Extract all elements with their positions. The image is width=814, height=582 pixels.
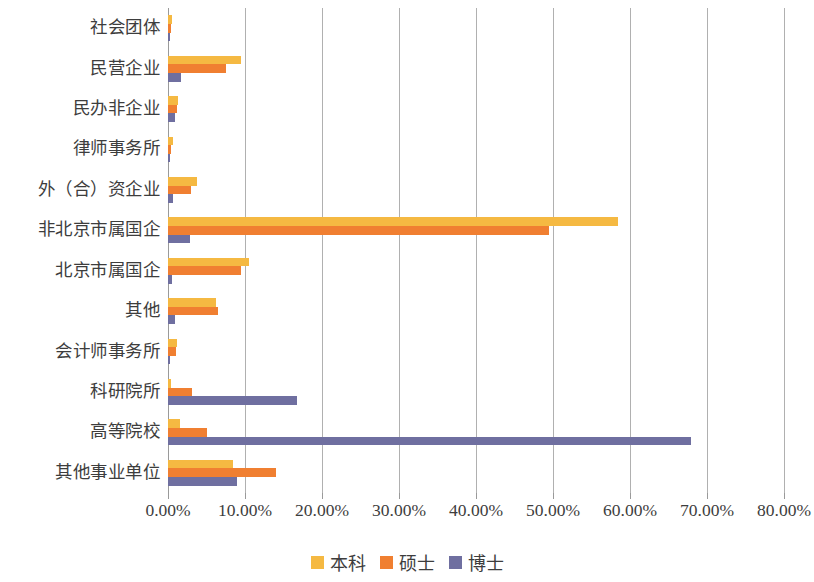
bar-group xyxy=(168,412,784,452)
bar-本科-会计师事务所 xyxy=(168,339,177,348)
y-axis-label-北京市属国企: 北京市属国企 xyxy=(0,262,160,280)
bar-博士-科研院所 xyxy=(168,396,297,405)
legend-swatch-icon-本科 xyxy=(311,556,324,569)
y-axis-label-社会团体: 社会团体 xyxy=(0,19,160,37)
bar-硕士-民营企业 xyxy=(168,64,226,73)
bar-本科-民营企业 xyxy=(168,56,241,65)
legend-item-本科[interactable]: 本科 xyxy=(311,549,366,575)
chart-legend: 本科硕士博士 xyxy=(0,549,814,575)
legend-label-博士: 博士 xyxy=(468,549,504,575)
bar-博士-其他事业单位 xyxy=(168,477,237,486)
x-tick-60 xyxy=(630,493,631,499)
x-tick-80 xyxy=(784,493,785,499)
bar-本科-外（合）资企业 xyxy=(168,177,197,186)
x-tick-0 xyxy=(168,493,169,499)
bar-本科-民办非企业 xyxy=(168,96,178,105)
bar-硕士-北京市属国企 xyxy=(168,266,241,275)
x-tick-40 xyxy=(476,493,477,499)
bar-本科-非北京市属国企 xyxy=(168,217,618,226)
y-axis-label-外（合）资企业: 外（合）资企业 xyxy=(0,181,160,199)
x-axis-tick-labels: 0.00%10.00%20.00%30.00%40.00%50.00%60.00… xyxy=(0,500,814,530)
bar-硕士-会计师事务所 xyxy=(168,347,176,356)
y-axis-label-律师事务所: 律师事务所 xyxy=(0,140,160,158)
y-axis-label-非北京市属国企: 非北京市属国企 xyxy=(0,221,160,239)
bar-group xyxy=(168,453,784,493)
bar-博士-其他 xyxy=(168,315,175,324)
x-tick-30 xyxy=(399,493,400,499)
horizontal-bar-chart: 社会团体民营企业民办非企业律师事务所外（合）资企业非北京市属国企北京市属国企其他… xyxy=(0,0,814,582)
bar-硕士-其他事业单位 xyxy=(168,468,276,477)
bar-group xyxy=(168,89,784,129)
x-tick-20 xyxy=(322,493,323,499)
bar-博士-会计师事务所 xyxy=(168,356,170,365)
bar-group xyxy=(168,372,784,412)
bar-硕士-非北京市属国企 xyxy=(168,226,549,235)
y-axis-label-高等院校: 高等院校 xyxy=(0,423,160,441)
bar-硕士-律师事务所 xyxy=(168,145,171,154)
bar-博士-民办非企业 xyxy=(168,113,175,122)
bar-本科-社会团体 xyxy=(168,15,172,24)
legend-swatch-icon-硕士 xyxy=(380,556,393,569)
x-tick-70 xyxy=(707,493,708,499)
bar-博士-高等院校 xyxy=(168,437,691,446)
y-axis-label-民营企业: 民营企业 xyxy=(0,60,160,78)
x-tick-50 xyxy=(553,493,554,499)
bar-本科-高等院校 xyxy=(168,419,180,428)
bar-博士-北京市属国企 xyxy=(168,275,172,284)
plot-area xyxy=(168,8,784,493)
legend-item-硕士[interactable]: 硕士 xyxy=(380,549,435,575)
legend-item-博士[interactable]: 博士 xyxy=(449,549,504,575)
bar-group xyxy=(168,210,784,250)
bar-博士-外（合）资企业 xyxy=(168,194,173,203)
bar-本科-其他事业单位 xyxy=(168,460,233,469)
bar-硕士-科研院所 xyxy=(168,388,192,397)
legend-swatch-icon-博士 xyxy=(449,556,462,569)
y-axis-label-科研院所: 科研院所 xyxy=(0,383,160,401)
bar-硕士-高等院校 xyxy=(168,428,207,437)
legend-label-硕士: 硕士 xyxy=(399,549,435,575)
y-axis-label-会计师事务所: 会计师事务所 xyxy=(0,343,160,361)
bar-博士-民营企业 xyxy=(168,73,181,82)
bar-本科-其他 xyxy=(168,298,216,307)
bar-group xyxy=(168,170,784,210)
bar-group xyxy=(168,129,784,169)
bar-本科-律师事务所 xyxy=(168,137,173,146)
bar-group xyxy=(168,291,784,331)
bar-博士-社会团体 xyxy=(168,33,170,42)
legend-label-本科: 本科 xyxy=(330,549,366,575)
bar-group xyxy=(168,8,784,48)
y-axis-label-其他: 其他 xyxy=(0,302,160,320)
gridline-80 xyxy=(784,8,785,493)
bar-硕士-外（合）资企业 xyxy=(168,186,191,195)
bar-本科-科研院所 xyxy=(168,379,171,388)
bar-group xyxy=(168,331,784,371)
bar-硕士-社会团体 xyxy=(168,24,171,33)
y-axis-label-民办非企业: 民办非企业 xyxy=(0,100,160,118)
bar-本科-北京市属国企 xyxy=(168,258,249,267)
bar-group xyxy=(168,48,784,88)
bar-博士-非北京市属国企 xyxy=(168,235,190,244)
bar-博士-律师事务所 xyxy=(168,154,170,163)
bar-group xyxy=(168,251,784,291)
bar-硕士-其他 xyxy=(168,307,218,316)
x-tick-label-80: 80.00% xyxy=(724,500,814,521)
x-tick-10 xyxy=(245,493,246,499)
y-axis-label-其他事业单位: 其他事业单位 xyxy=(0,464,160,482)
bar-硕士-民办非企业 xyxy=(168,105,177,114)
